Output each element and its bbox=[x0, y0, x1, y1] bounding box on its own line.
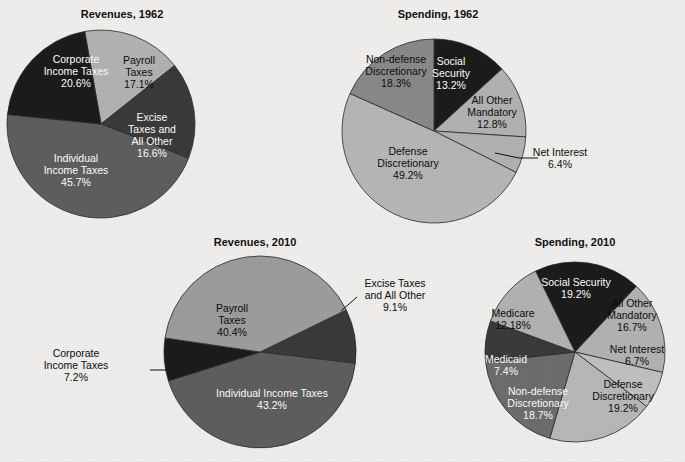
pie-slices bbox=[164, 256, 356, 448]
chart-title: Revenues, 1962 bbox=[81, 8, 164, 20]
slice-label: Medicare12.18% bbox=[491, 307, 534, 331]
pie-chart-figure: Revenues, 1962PayrollTaxes17.1%ExciseTax… bbox=[0, 0, 685, 462]
slice-label: SocialSecurity13.2% bbox=[432, 55, 471, 91]
chart-title: Revenues, 2010 bbox=[214, 236, 297, 248]
chart-title: Spending, 2010 bbox=[535, 236, 616, 248]
chart-title: Spending, 1962 bbox=[398, 8, 479, 20]
slice-label: PayrollTaxes17.1% bbox=[123, 54, 155, 90]
slice-label: PayrollTaxes40.4% bbox=[216, 302, 248, 338]
